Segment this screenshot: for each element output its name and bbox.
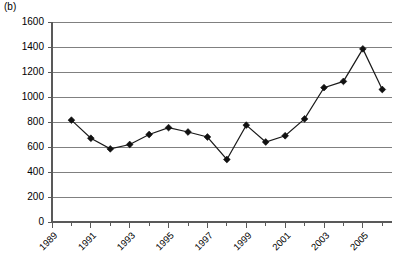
x-tick-label: 1993 — [114, 230, 137, 253]
data-line-group — [71, 49, 382, 160]
y-tick-label: 1400 — [22, 41, 45, 52]
y-tick-label: 0 — [38, 216, 44, 227]
y-tick-label: 800 — [27, 116, 44, 127]
y-tick-labels-group: 02004006008001000120014001600 — [22, 16, 45, 227]
data-point-marker — [165, 124, 172, 131]
y-tick-label: 1000 — [22, 91, 45, 102]
gridlines-group — [52, 22, 392, 197]
x-tick-labels-group: 198919911993199519971999200120032005 — [37, 230, 371, 253]
data-point-marker — [359, 45, 366, 52]
x-tick-label: 2003 — [309, 230, 332, 253]
x-tick-label: 1995 — [153, 230, 176, 253]
data-point-marker — [146, 131, 153, 138]
chart-canvas: 02004006008001000120014001600 1989199119… — [0, 0, 398, 257]
x-tickmarks-group — [52, 222, 382, 228]
line-chart: 02004006008001000120014001600 1989199119… — [0, 0, 398, 257]
data-point-marker — [321, 84, 328, 91]
y-tick-label: 1200 — [22, 66, 45, 77]
x-tick-label: 1999 — [231, 230, 254, 253]
data-point-marker — [379, 86, 386, 93]
x-tick-label: 1989 — [37, 230, 60, 253]
y-tick-label: 600 — [27, 141, 44, 152]
data-point-marker — [107, 145, 114, 152]
x-tick-label: 1997 — [192, 230, 215, 253]
x-tick-label: 1991 — [76, 230, 99, 253]
y-tick-label: 1600 — [22, 16, 45, 27]
y-tick-label: 400 — [27, 166, 44, 177]
y-tick-label: 200 — [27, 191, 44, 202]
x-tick-label: 2005 — [348, 230, 371, 253]
series-line — [71, 49, 382, 160]
x-tick-label: 2001 — [270, 230, 293, 253]
data-point-marker — [340, 78, 347, 85]
data-point-marker — [185, 129, 192, 136]
figure-panel: (b) 02004006008001000120014001600 198919… — [0, 0, 398, 257]
data-markers-group — [68, 45, 386, 162]
